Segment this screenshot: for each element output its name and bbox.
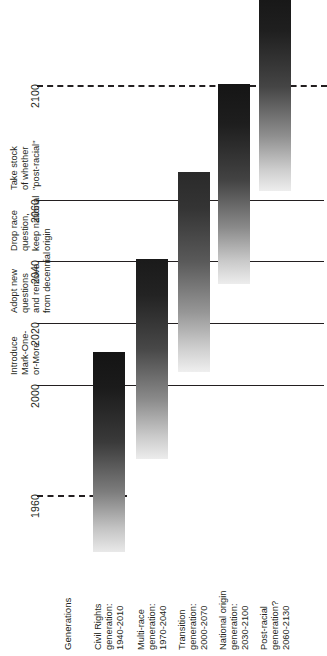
annotation-drop-race-question-line4: origin xyxy=(42,228,53,251)
category-label-civil-rights-line2: generation: xyxy=(104,603,115,650)
category-label-multi-race-line3: 1970-2040 xyxy=(158,606,169,650)
category-label-multi-race-line1: Multi-race xyxy=(136,609,147,650)
bar-national-origin-generation[interactable] xyxy=(218,84,250,284)
annotation-take-stock-post-racial-line3: "post-racial" xyxy=(31,141,42,191)
category-label-transition-line2: generation: xyxy=(188,603,199,650)
annotation-drop-race-question-line1: Drop race xyxy=(9,210,20,251)
category-label-post-racial-line3: 2060-2130 xyxy=(281,606,292,650)
chart-canvas: 2100 2060 2040 2020 2000 1960 Introduce … xyxy=(0,0,327,656)
gridline-2000 xyxy=(37,385,324,386)
annotation-introduce-mark-one-or-more-line3: or-More xyxy=(31,342,42,375)
bar-post-racial-generation[interactable] xyxy=(259,0,291,191)
category-label-national-origin-line1: National origin xyxy=(218,591,229,650)
annotation-adopt-new-questions-line3: and remove xyxy=(31,264,42,313)
category-label-transition-line1: Transition xyxy=(177,610,188,650)
annotation-adopt-new-questions-line4: from decennial xyxy=(42,252,53,313)
category-label-transition-line3: 2000-2070 xyxy=(199,606,210,650)
category-label-post-racial-line2: generation? xyxy=(270,601,281,650)
category-axis-title: Generations xyxy=(62,598,73,650)
category-label-post-racial-line1: Post-racial xyxy=(259,606,270,650)
annotation-take-stock-post-racial-line2: of whether xyxy=(20,147,31,190)
bar-multi-race-generation[interactable] xyxy=(136,259,168,459)
tick-label-2000: 2000 xyxy=(30,384,41,408)
annotation-adopt-new-questions-line2: questions xyxy=(20,273,31,313)
tick-label-2100: 2100 xyxy=(30,84,41,108)
category-label-national-origin-line3: 2030-2100 xyxy=(240,606,251,650)
category-label-civil-rights-line1: Civil Rights xyxy=(93,604,104,651)
annotation-introduce-mark-one-or-more-line1: Introduce xyxy=(9,336,20,375)
annotation-drop-race-question-line3: keep national xyxy=(31,196,42,251)
bar-civil-rights-generation[interactable] xyxy=(93,352,125,552)
annotation-adopt-new-questions-line1: Adopt new xyxy=(9,269,20,313)
tick-label-1960: 1960 xyxy=(30,494,41,518)
annotation-introduce-mark-one-or-more-line2: Mark-One- xyxy=(20,331,31,375)
category-label-civil-rights-line3: 1940-2010 xyxy=(115,606,126,650)
category-label-national-origin-line2: generation: xyxy=(229,603,240,650)
annotation-drop-race-question-line2: question, xyxy=(20,213,31,251)
annotation-take-stock-post-racial-line1: Take stock xyxy=(9,146,20,190)
category-label-multi-race-line2: generation: xyxy=(147,603,158,650)
bar-transition-generation[interactable] xyxy=(178,172,210,372)
